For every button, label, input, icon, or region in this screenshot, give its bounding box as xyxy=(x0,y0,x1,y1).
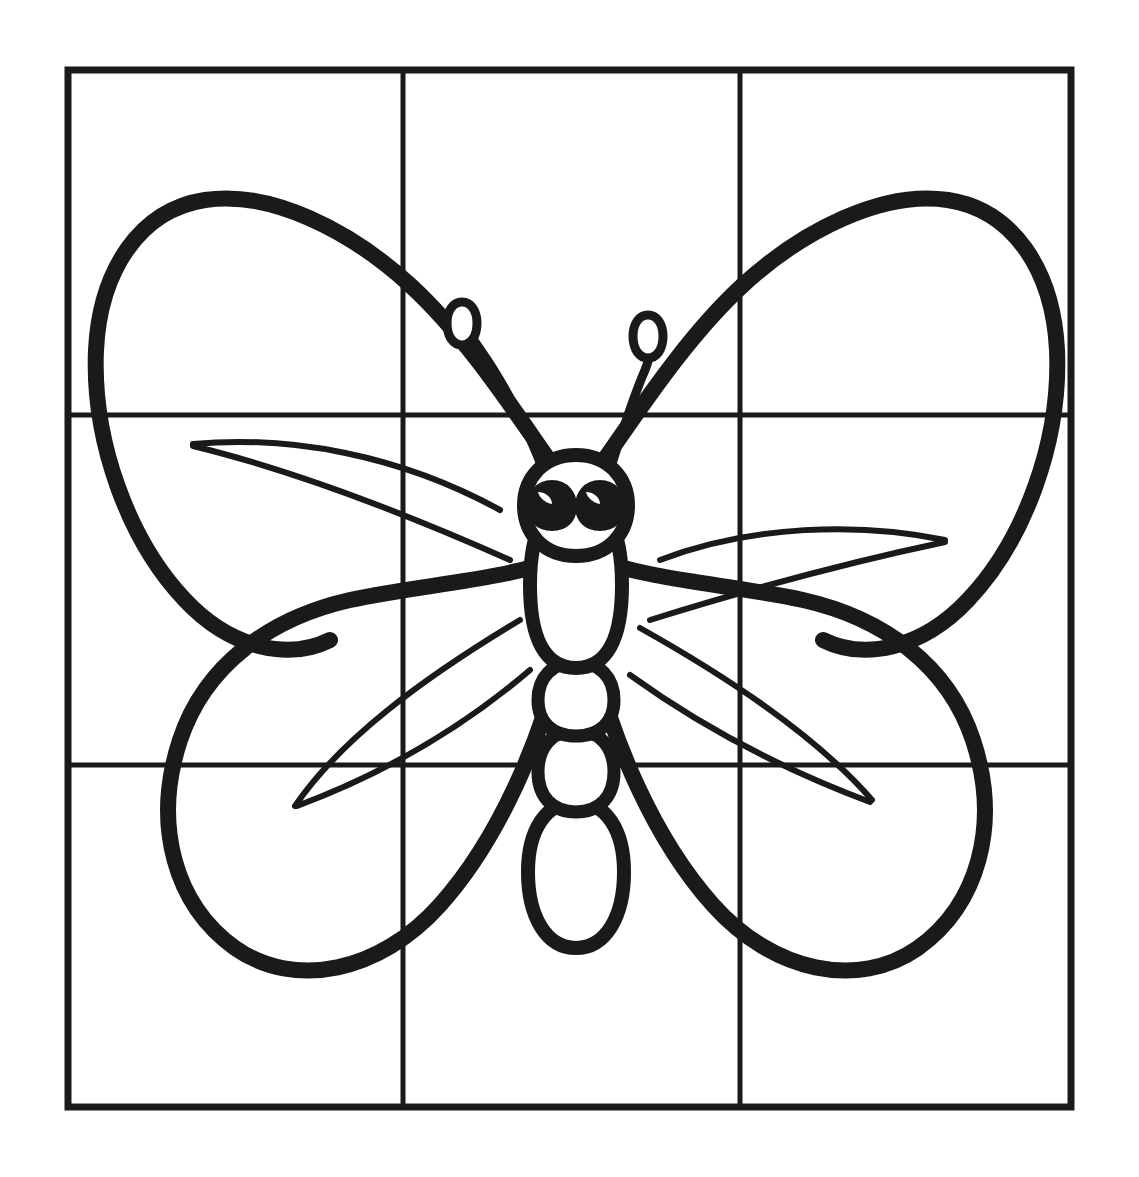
body-abdomen xyxy=(528,802,624,948)
right-antenna-tip-loop xyxy=(633,315,663,358)
right-eye xyxy=(578,483,622,528)
drawing-canvas xyxy=(0,0,1139,1177)
butterfly-grid-artboard xyxy=(0,0,1139,1177)
left-eye xyxy=(530,483,574,528)
left-antenna-tip-loop xyxy=(447,302,477,345)
